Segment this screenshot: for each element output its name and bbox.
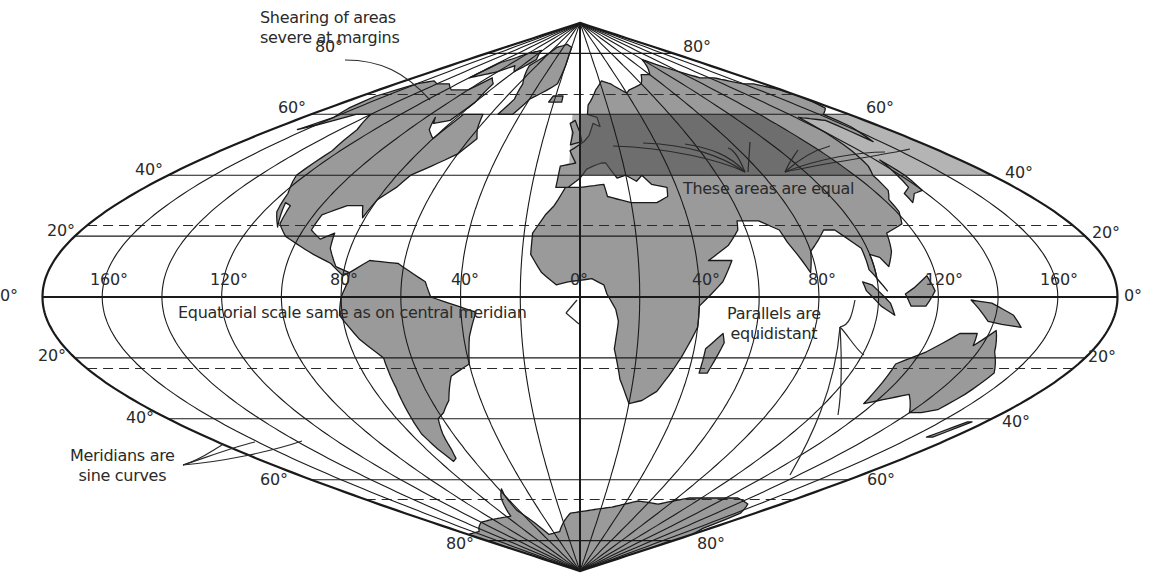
longitude-label: 160° [1040, 271, 1078, 289]
parallels-note-line2: equidistant [727, 324, 821, 344]
latitude-label: 0° [1124, 287, 1142, 305]
parallels-note: Parallels are equidistant [727, 304, 821, 344]
graticule [43, 23, 1118, 571]
longitude-label: 80° [330, 271, 358, 289]
parallels-note-line1: Parallels are [727, 304, 821, 324]
meridians-note: Meridians are sine curves [70, 446, 175, 486]
latitude-label: 20° [1088, 348, 1116, 366]
land-new-zealand [926, 422, 972, 437]
meridians-note-line2: sine curves [70, 466, 175, 486]
latitude-label: 20° [38, 347, 66, 365]
equatorial-arrow-up [566, 300, 577, 313]
latitude-label: 60° [867, 471, 895, 489]
world-map-sinusoidal [0, 0, 1160, 583]
equatorial-scale-note: Equatorial scale same as on central meri… [178, 303, 527, 323]
longitude-label: 120° [925, 271, 963, 289]
latitude-label: 40° [126, 409, 154, 427]
parallels-arrow-1 [840, 300, 855, 327]
latitude-label: 80° [697, 535, 725, 553]
longitude-label: 40° [451, 271, 479, 289]
longitude-label: 80° [808, 271, 836, 289]
latitude-label: 40° [1005, 164, 1033, 182]
longitude-label: 120° [210, 271, 248, 289]
parallels-arrow-2 [840, 327, 864, 355]
longitude-label: 0° [570, 271, 588, 289]
meridians-note-line1: Meridians are [70, 446, 175, 466]
equatorial-arrow-down [566, 313, 579, 324]
meridians-arrow-1 [183, 445, 222, 465]
shearing-note-line2: severe at margins [260, 28, 399, 48]
latitude-label: 0° [0, 287, 18, 305]
equal-areas-note: These areas are equal [683, 179, 854, 199]
parallels-arrow-4 [790, 327, 840, 475]
longitude-label: 40° [692, 271, 720, 289]
latitude-label: 20° [47, 222, 75, 240]
shearing-note: Shearing of areas severe at margins [260, 8, 399, 48]
latitude-label: 80° [446, 535, 474, 553]
latitude-label: 80° [683, 38, 711, 56]
latitude-label: 20° [1092, 224, 1120, 242]
shearing-note-line1: Shearing of areas [260, 8, 399, 28]
land-madagascar [699, 334, 724, 374]
latitude-label: 60° [278, 99, 306, 117]
latitude-label: 40° [135, 161, 163, 179]
latitude-label: 40° [1002, 413, 1030, 431]
latitude-label: 60° [866, 99, 894, 117]
longitude-label: 160° [90, 271, 128, 289]
latitude-label: 60° [260, 471, 288, 489]
